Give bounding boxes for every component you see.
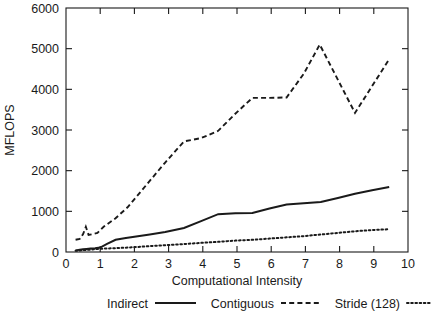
x-tick-label-2: 2 <box>131 257 138 271</box>
y-tick-label-6000: 6000 <box>31 2 59 16</box>
x-tick-label-5: 5 <box>234 257 241 271</box>
y-axis-ticks <box>66 49 408 212</box>
x-tick-label-0: 0 <box>63 257 70 271</box>
x-axis-title: Computational Intensity <box>172 274 303 288</box>
y-tick-label-4000: 4000 <box>31 83 59 97</box>
x-tick-label-8: 8 <box>336 257 343 271</box>
x-tick-label-9: 9 <box>370 257 377 271</box>
legend-label-indirect: Indirect <box>107 297 149 311</box>
x-axis-tick-labels: 012345678910 <box>63 257 415 271</box>
series-line-stride-128 <box>76 229 390 251</box>
chart-page: 012345678910 0100020003000400050006000 C… <box>0 0 431 311</box>
y-axis-tick-labels: 0100020003000400050006000 <box>31 2 59 260</box>
legend-label-contiguous: Contiguous <box>211 297 274 311</box>
mflops-vs-computational-intensity-chart: 012345678910 0100020003000400050006000 C… <box>0 0 431 311</box>
legend-label-stride-128: Stride (128) <box>335 297 400 311</box>
y-tick-label-0: 0 <box>52 246 59 260</box>
x-tick-label-7: 7 <box>302 257 309 271</box>
x-tick-label-1: 1 <box>97 257 104 271</box>
y-axis-title: MFLOPS <box>3 104 17 155</box>
y-tick-label-5000: 5000 <box>31 42 59 56</box>
series-line-contiguous <box>76 45 390 240</box>
x-tick-label-6: 6 <box>268 257 275 271</box>
x-tick-label-10: 10 <box>401 257 415 271</box>
data-series-group <box>76 45 390 251</box>
x-tick-label-4: 4 <box>199 257 206 271</box>
y-tick-label-2000: 2000 <box>31 164 59 178</box>
y-tick-label-1000: 1000 <box>31 205 59 219</box>
x-axis-ticks <box>100 8 374 252</box>
x-tick-label-3: 3 <box>165 257 172 271</box>
chart-legend: IndirectContiguousStride (128) <box>107 297 431 311</box>
y-tick-label-3000: 3000 <box>31 124 59 138</box>
